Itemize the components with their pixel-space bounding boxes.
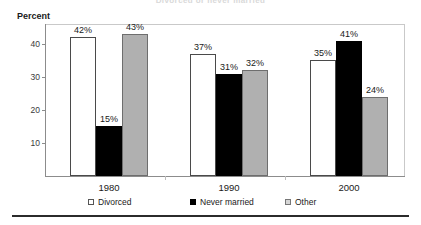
bar-value-label: 35% — [305, 48, 341, 58]
bottom-divider — [12, 215, 409, 217]
bar-never-married-1980 — [96, 126, 122, 176]
bar-other-1990 — [242, 70, 268, 176]
bar-other-2000 — [362, 97, 388, 176]
y-axis-caption: Percent — [17, 11, 50, 21]
x-axis-separator-tick — [285, 176, 286, 180]
chart-legend: DivorcedNever marriedOther — [0, 197, 421, 211]
legend-swatch-icon — [190, 199, 196, 205]
x-category-label-2000: 2000 — [309, 182, 389, 193]
bar-value-label: 24% — [357, 85, 393, 95]
bars-layer — [45, 24, 405, 176]
legend-swatch-icon — [285, 199, 291, 205]
x-category-label-1990: 1990 — [189, 182, 269, 193]
bar-value-label: 42% — [65, 25, 101, 35]
legend-label: Other — [295, 197, 316, 207]
bar-divorced-1990 — [190, 54, 216, 176]
bar-value-label: 37% — [185, 42, 221, 52]
bar-value-label: 43% — [117, 22, 153, 32]
bar-never-married-1990 — [216, 74, 242, 176]
legend-item-never-married[interactable]: Never married — [190, 197, 254, 207]
legend-item-other[interactable]: Other — [285, 197, 316, 207]
bar-never-married-2000 — [336, 41, 362, 176]
x-category-label-1980: 1980 — [69, 182, 149, 193]
legend-swatch-icon — [88, 199, 94, 205]
y-tick-label: 40 — [14, 39, 40, 49]
bar-divorced-1980 — [70, 37, 96, 176]
bar-value-label: 32% — [237, 58, 273, 68]
x-axis-separator-tick — [165, 176, 166, 180]
bar-other-1980 — [122, 34, 148, 176]
bar-value-label: 41% — [331, 29, 367, 39]
y-tick-label: 20 — [14, 105, 40, 115]
bar-value-label: 15% — [91, 114, 127, 124]
x-axis-line — [45, 176, 405, 177]
y-tick-label: 10 — [14, 138, 40, 148]
chart-page: Divorced or never married Percent 102030… — [0, 0, 421, 225]
legend-label: Divorced — [98, 197, 132, 207]
chart-title-cropped: Divorced or never married — [0, 0, 421, 4]
legend-label: Never married — [200, 197, 254, 207]
y-tick-label: 30 — [14, 72, 40, 82]
legend-item-divorced[interactable]: Divorced — [88, 197, 132, 207]
bar-divorced-2000 — [310, 60, 336, 176]
